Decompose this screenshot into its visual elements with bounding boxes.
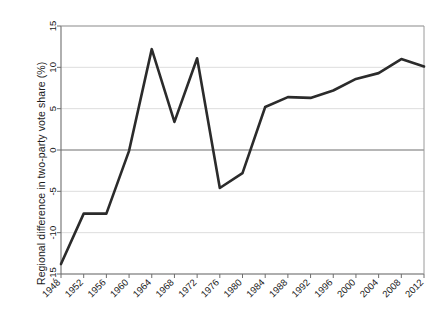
- x-tick-label: 1984: [244, 277, 267, 300]
- x-tick-label: 1988: [267, 277, 290, 300]
- y-tick-label: 5: [47, 106, 58, 111]
- x-tick-label: 2004: [357, 277, 380, 300]
- x-tick-label: 1972: [176, 277, 199, 300]
- x-tick-label: 1976: [198, 277, 221, 300]
- x-tick-label: 1956: [85, 277, 108, 300]
- y-tick-label: -5: [47, 187, 58, 195]
- x-tick-label: 1952: [62, 277, 85, 300]
- x-tick-label: 2008: [380, 277, 403, 300]
- data-series-line: [61, 49, 424, 264]
- y-tick-label: 0: [47, 147, 58, 152]
- x-tick-label: 1960: [108, 277, 131, 300]
- x-tick-label: 1968: [153, 277, 176, 300]
- x-tick-label: 1964: [130, 277, 153, 300]
- x-axis-ticks: 1948195219561960196419681972197619801984…: [40, 274, 426, 299]
- x-tick-label: 1980: [221, 277, 244, 300]
- y-axis-ticks: 151050-5-10-15: [47, 21, 61, 281]
- gridlines-group: [61, 26, 424, 274]
- line-chart-plot: 151050-5-10-15 1948195219561960196419681…: [0, 0, 446, 319]
- chart-container: Regional difference in two-party vote sh…: [0, 0, 446, 319]
- y-tick-label: -10: [47, 226, 58, 240]
- y-tick-label: 15: [47, 21, 58, 32]
- x-tick-label: 1992: [289, 277, 312, 300]
- x-tick-label: 2000: [335, 277, 358, 300]
- x-tick-label: 1948: [40, 277, 63, 300]
- x-tick-label: 1996: [312, 277, 335, 300]
- y-tick-label: 10: [47, 62, 58, 73]
- x-tick-label: 2012: [403, 277, 426, 300]
